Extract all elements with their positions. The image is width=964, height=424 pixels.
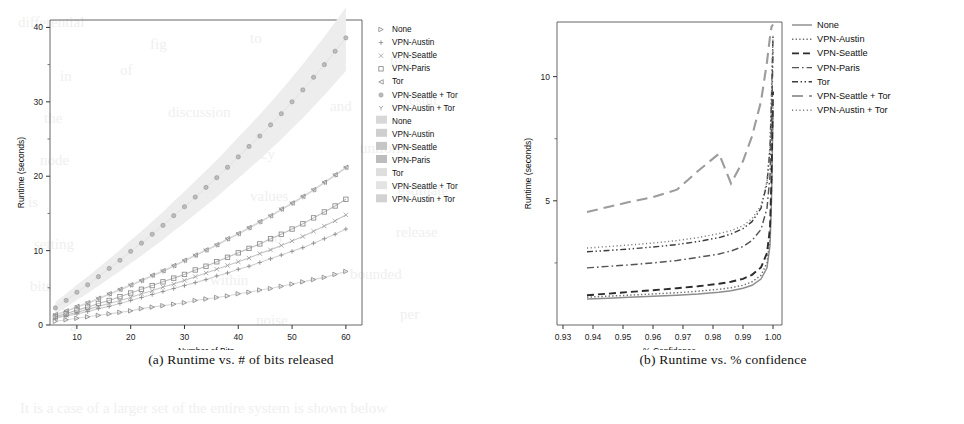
data-point [268, 123, 272, 127]
legend-item-vpn-austin[interactable]: VPN-Austin [792, 34, 865, 44]
x-tick-label: 0.96 [645, 332, 662, 342]
panel-b-caption: (b) Runtime vs. % confidence [482, 352, 964, 368]
data-point [258, 260, 262, 264]
legend-swatch [376, 168, 387, 176]
legend-label: VPN-Austin [392, 130, 435, 139]
legend-label: VPN-Seattle + Tor [392, 182, 458, 191]
legend-item-tor[interactable]: Tor [792, 77, 830, 87]
legend-item-vpn-paris[interactable]: VPN-Paris [792, 63, 860, 73]
legend-line-item-vpn-seattle-tor[interactable]: VPN-Seattle + Tor [376, 181, 458, 191]
data-point [107, 266, 111, 270]
data-point [225, 165, 229, 169]
legend-label: VPN-Paris [392, 64, 430, 73]
y-axis-title: Runtime (seconds) [16, 137, 26, 209]
data-point [379, 27, 383, 31]
legend-swatch [376, 155, 387, 163]
data-point [182, 283, 186, 287]
data-point [379, 106, 383, 110]
legend-label: VPN-Seattle [817, 48, 868, 58]
data-point [86, 283, 90, 287]
legend-label: VPN-Austin [392, 38, 435, 47]
data-point [204, 185, 208, 189]
chart-a-legend: NoneVPN-AustinVPN-SeattleVPN-ParisTorVPN… [376, 25, 458, 204]
legend-line-item-vpn-austin[interactable]: VPN-Austin [376, 129, 435, 139]
legend-label: VPN-Seattle + Tor [817, 91, 891, 101]
data-point [279, 253, 283, 257]
data-point [333, 49, 337, 53]
y-tick-label: 40 [34, 22, 44, 32]
line-vpn-seattle-tor [587, 24, 773, 212]
legend-item-vpn-seattle-tor[interactable]: VPN-Seattle + Tor [792, 91, 891, 101]
legend-item-vpn-paris[interactable]: VPN-Paris [379, 64, 430, 73]
legend-line-item-vpn-seattle[interactable]: VPN-Seattle [376, 142, 437, 152]
line-vpn-austin-tor [587, 34, 773, 248]
data-point [379, 93, 383, 97]
legend-swatch [376, 116, 387, 124]
legend-item-tor[interactable]: Tor [379, 77, 404, 86]
x-tick-label: 0.98 [705, 332, 722, 342]
data-point [96, 275, 100, 279]
data-point [344, 36, 348, 40]
x-tick-label: 60 [341, 332, 351, 342]
x-tick-label: 10 [72, 332, 82, 342]
legend-item-vpn-austin-tor[interactable]: VPN-Austin + Tor [792, 105, 888, 115]
legend-label: None [392, 117, 412, 126]
legend-label: Tor [817, 77, 830, 87]
data-point [301, 234, 305, 238]
legend-line-item-none[interactable]: None [376, 116, 412, 126]
legend-label: Tor [392, 77, 404, 86]
data-point [379, 54, 383, 58]
x-axis-title: Number of Bits [178, 346, 234, 350]
x-tick-label: 1.00 [765, 332, 782, 342]
legend-label: VPN-Seattle [392, 143, 437, 152]
data-point [322, 63, 326, 67]
data-point [172, 214, 176, 218]
legend-item-vpn-austin[interactable]: VPN-Austin [379, 38, 435, 47]
legend-label: VPN-Seattle [392, 51, 437, 60]
line-vpn-seattle [587, 92, 773, 296]
x-tick-label: 0.93 [555, 332, 572, 342]
legend-item-vpn-austin-tor[interactable]: VPN-Austin + Tor [379, 104, 455, 113]
legend-label: None [392, 25, 412, 34]
plot-frame [557, 22, 782, 325]
legend-swatch [376, 194, 387, 202]
y-tick-label: 5 [545, 196, 550, 206]
data-point [379, 80, 383, 84]
legend-line-item-vpn-paris[interactable]: VPN-Paris [376, 155, 430, 165]
legend-label: VPN-Seattle + Tor [392, 91, 458, 100]
panel-a-runtime-vs-bits: 010203040102030405060Number of BitsRunti… [0, 0, 482, 424]
data-point [64, 298, 68, 302]
line-vpn-austin [587, 101, 773, 297]
line-vpn-paris [587, 52, 773, 268]
legend-item-none[interactable]: None [379, 25, 412, 34]
data-point [161, 289, 165, 293]
data-point [290, 249, 294, 253]
legend-label: VPN-Austin + Tor [392, 195, 455, 204]
chart-b-legend: NoneVPN-AustinVPN-SeattleVPN-ParisTorVPN… [792, 20, 891, 115]
x-tick-label: 40 [234, 332, 244, 342]
data-point [75, 290, 79, 294]
data-point [139, 295, 143, 299]
series-vpn-paris [53, 197, 348, 319]
y-tick-label: 0 [38, 320, 43, 330]
chart-a-svg: 010203040102030405060Number of BitsRunti… [0, 0, 482, 350]
legend-item-vpn-seattle-tor[interactable]: VPN-Seattle + Tor [379, 91, 458, 100]
data-point [236, 267, 240, 271]
legend-label: VPN-Paris [392, 156, 430, 165]
x-tick-label: 50 [287, 332, 297, 342]
x-tick-label: 0.95 [615, 332, 632, 342]
data-point [225, 271, 229, 275]
chart-b-lines [587, 24, 773, 298]
legend-line-item-tor[interactable]: Tor [376, 168, 404, 178]
legend-item-vpn-seattle[interactable]: VPN-Seattle [379, 51, 438, 60]
data-point [161, 223, 165, 227]
data-point [204, 277, 208, 281]
legend-label: VPN-Austin + Tor [392, 104, 455, 113]
legend-label: VPN-Paris [817, 63, 860, 73]
data-point [379, 67, 383, 71]
data-point [236, 155, 240, 159]
legend-item-none[interactable]: None [792, 20, 839, 30]
legend-line-item-vpn-austin-tor[interactable]: VPN-Austin + Tor [376, 194, 455, 204]
line-none [587, 111, 773, 299]
legend-item-vpn-seattle[interactable]: VPN-Seattle [792, 48, 868, 58]
